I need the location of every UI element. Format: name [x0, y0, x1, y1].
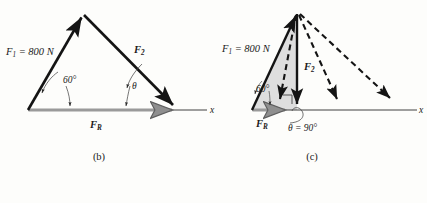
panel-c-f1-label: F1 = 800 N [221, 43, 271, 56]
panel-b-f1-vector [28, 18, 82, 111]
panel-b-caption: (b) [93, 151, 106, 163]
panel-b-theta-leader-lower [126, 86, 130, 106]
panel-b-fr-label: FR [89, 119, 102, 132]
panel-b-angle60-label: 60° [63, 75, 77, 85]
panel-b-angle60-leader-lower [66, 86, 70, 106]
panel-b-f2-label: F2 [133, 44, 145, 57]
force-diagram-svg: F1 = 800 N F2 FR 60° θ x (b) [0, 0, 427, 203]
panel-b-f1-label: F1 = 800 N [5, 46, 55, 59]
panel-c-caption: (c) [306, 151, 318, 163]
panel-c-angle60-label: 60° [256, 84, 270, 94]
panel-c-fr-label: FR [255, 118, 268, 131]
panel-c-dashed-vector-2 [299, 15, 337, 99]
panel-c-axis-label: x [418, 105, 424, 115]
panel-c-group: F1 = 800 N F2 FR 60° θ = 90° x (c) [221, 13, 424, 163]
panel-b-group: F1 = 800 N F2 FR 60° θ x (b) [5, 15, 215, 163]
panel-c-f2-label: F2 [303, 61, 315, 74]
panel-c-dashed-vector-3 [300, 14, 390, 98]
panel-b-theta-label: θ [132, 81, 137, 91]
panel-c-theta-label: θ = 90° [288, 123, 317, 133]
panel-b-axis-label: x [209, 105, 215, 115]
figure-container: F1 = 800 N F2 FR 60° θ x (b) [0, 0, 427, 203]
